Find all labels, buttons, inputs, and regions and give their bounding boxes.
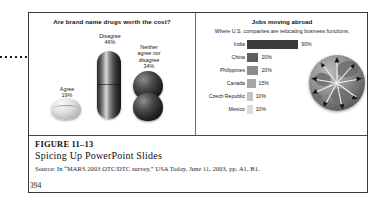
label-agree: Agree 19% <box>47 86 87 99</box>
bar-fill <box>247 92 253 101</box>
bar-value-label: 90% <box>301 41 311 47</box>
bar-row: Czech Republic10% <box>198 91 306 104</box>
label-disagree-value: 46% <box>87 39 133 45</box>
bar-category-label: Mexico <box>193 106 245 112</box>
page-number: 394 <box>30 181 41 190</box>
bar-track <box>247 53 258 62</box>
label-neither-text: Neitheragree nordisagree <box>129 44 169 63</box>
figure-page: Are brand name drugs worth the cost? Dis… <box>0 0 391 209</box>
tablet-graphic-agree <box>51 98 81 120</box>
bar-fill <box>247 66 258 75</box>
bar-value-label: 20% <box>261 54 271 60</box>
bar-row: Philippines20% <box>198 65 306 78</box>
bar-track <box>247 40 298 49</box>
bar-category-label: India <box>193 41 245 47</box>
bar-fill <box>247 53 258 62</box>
capsule-graphic-disagree <box>97 51 121 119</box>
bar-row: Mexico10% <box>198 104 306 117</box>
bar-row: Canada15% <box>198 78 306 91</box>
globe-graphic <box>309 55 365 111</box>
bar-track <box>247 92 253 101</box>
right-chart-title: Jobs moving abroad <box>196 18 368 25</box>
label-disagree: Disagree 46% <box>87 33 133 46</box>
label-neither: Neitheragree nordisagree 34% <box>129 44 169 70</box>
bar-row: China20% <box>198 52 306 65</box>
figure-number: FIGURE 11–13 <box>35 139 361 149</box>
globe-arrow-rays-icon <box>309 55 365 111</box>
bar-chart: India90%China20%Philippines20%Canada15%C… <box>198 39 306 117</box>
bar-track <box>247 105 253 114</box>
bar-value-label: 10% <box>256 93 266 99</box>
figure-caption: FIGURE 11–13 Spicing Up PowerPoint Slide… <box>29 136 367 192</box>
bar-category-label: Czech Republic <box>193 93 245 99</box>
bar-value-label: 10% <box>256 106 266 112</box>
label-neither-value: 34% <box>129 63 169 69</box>
bar-row: India90% <box>198 39 306 52</box>
left-chart-title: Are brand name drugs worth the cost? <box>35 18 189 25</box>
right-slide-panel: Jobs moving abroad Where U.S. companies … <box>196 13 368 135</box>
bar-category-label: Philippines <box>193 67 245 73</box>
bar-fill <box>247 40 298 49</box>
bar-category-label: China <box>193 54 245 60</box>
bar-fill <box>247 105 253 114</box>
left-slide-panel: Are brand name drugs worth the cost? Dis… <box>29 13 195 135</box>
bar-value-label: 20% <box>261 67 271 73</box>
bar-category-label: Canada <box>193 80 245 86</box>
sphere-graphic-neither-bottom <box>133 93 163 121</box>
figure-frame: Are brand name drugs worth the cost? Dis… <box>28 12 368 193</box>
figure-source: Source: In “MARS 2003 OTC/DTC survey,” U… <box>35 165 361 172</box>
bar-value-label: 15% <box>259 80 269 86</box>
figure-title: Spicing Up PowerPoint Slides <box>35 150 361 161</box>
bar-fill <box>247 79 256 88</box>
bar-track <box>247 79 256 88</box>
right-chart-subtitle: Where U.S. companies are relocating busi… <box>196 28 368 34</box>
bar-track <box>247 66 258 75</box>
